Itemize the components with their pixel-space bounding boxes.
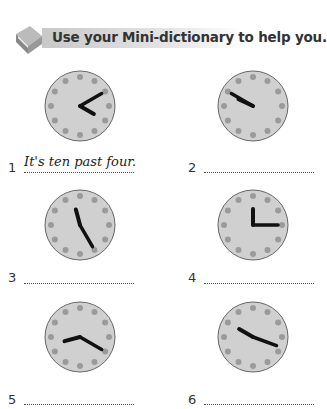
item-number-2: 2: [188, 160, 196, 175]
clock-5: [43, 300, 117, 374]
clock-icon: [43, 300, 117, 374]
answer-line-6[interactable]: [204, 404, 314, 405]
book-icon: [14, 24, 44, 56]
item-number-5: 5: [8, 392, 16, 407]
clock-3: [43, 188, 117, 262]
clock-1: [43, 69, 117, 143]
clock-icon: [43, 69, 117, 143]
clock-icon: [216, 188, 290, 262]
answer-line-5[interactable]: [24, 404, 134, 405]
item-number-6: 6: [188, 392, 196, 407]
item-number-1: 1: [8, 160, 16, 175]
item-number-4: 4: [188, 270, 196, 285]
clock-6: [216, 300, 290, 374]
answer-line-2[interactable]: [204, 172, 314, 173]
instruction-banner: Use your Mini-dictionary to help you.: [14, 24, 274, 56]
clock-icon: [216, 69, 290, 143]
answer-1: It's ten past four.: [24, 154, 136, 169]
answer-line-1[interactable]: [24, 172, 134, 173]
clock-2: [216, 69, 290, 143]
answer-line-3[interactable]: [24, 283, 134, 284]
instruction-text: Use your Mini-dictionary to help you.: [52, 29, 327, 45]
clock-icon: [43, 188, 117, 262]
item-number-3: 3: [8, 270, 16, 285]
answer-line-4[interactable]: [204, 283, 314, 284]
clock-icon: [216, 300, 290, 374]
clock-4: [216, 188, 290, 262]
